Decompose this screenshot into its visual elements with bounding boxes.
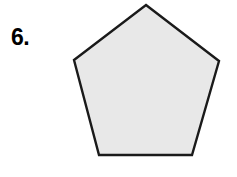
pentagon-figure <box>0 0 237 177</box>
figure-canvas: 6. <box>0 0 237 177</box>
pentagon-shape <box>74 5 219 155</box>
